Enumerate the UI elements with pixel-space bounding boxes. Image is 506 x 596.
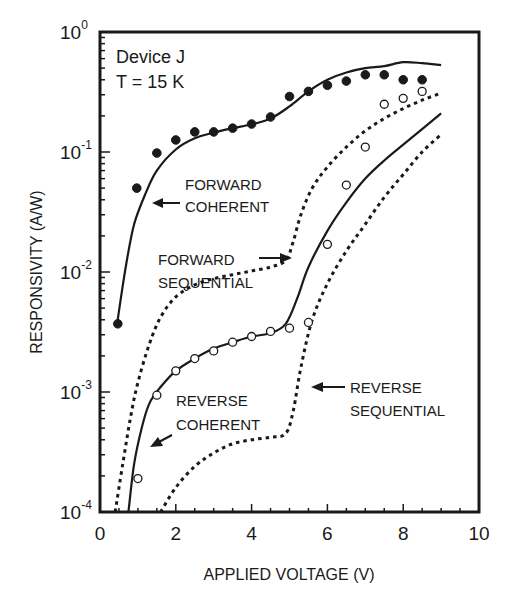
forward-data-point: [247, 120, 256, 129]
reverse-data-point: [380, 100, 388, 108]
y-tick-label: 100: [60, 18, 88, 43]
reverse-data-point: [323, 240, 331, 248]
forward-data-point: [114, 320, 123, 329]
reverse-data-point: [172, 367, 180, 375]
reverse-data-point: [229, 338, 237, 346]
x-tick-label: 2: [171, 523, 182, 544]
forward-data-point: [323, 81, 332, 90]
forward-data-point: [132, 184, 141, 193]
x-axis-tick-labels: 0246810: [95, 523, 490, 544]
reverse-sequential-label-line1: REVERSE: [350, 379, 422, 396]
forward-coherent-arrow-icon: [152, 198, 180, 208]
forward-data-point: [304, 87, 313, 96]
forward-data-point: [361, 70, 370, 79]
reverse-data-point: [361, 143, 369, 151]
y-tick-label: 10-4: [60, 498, 92, 523]
series-reverse-coherent-theory: [128, 113, 441, 512]
forward-sequential-arrow-icon: [259, 253, 292, 263]
forward-data-point: [153, 149, 162, 158]
x-tick-label: 0: [95, 523, 106, 544]
forward-data-point: [342, 77, 351, 86]
reverse-data-point: [191, 355, 199, 363]
forward-coherent-label-line2: COHERENT: [185, 198, 269, 215]
x-tick-label: 6: [322, 523, 333, 544]
forward-data-point: [380, 70, 389, 79]
x-axis-title: APPLIED VOLTAGE (V): [203, 566, 374, 583]
reverse-data-point: [210, 347, 218, 355]
y-axis-title: RESPONSIVITY (A/W): [28, 190, 45, 353]
forward-data-point: [399, 75, 408, 84]
reverse-data-point: [267, 327, 275, 335]
temperature-label: T = 15 K: [116, 72, 184, 92]
annotations: Device J T = 15 K FORWARD COHERENT FORWA…: [116, 47, 445, 447]
reverse-sequential-arrow-icon: [311, 382, 345, 392]
x-axis-ticks: [100, 504, 479, 512]
responsivity-chart: 0246810 10010-110-210-310-4 Device J T =…: [0, 0, 506, 596]
y-tick-label: 10-1: [60, 138, 92, 163]
reverse-data-point: [399, 94, 407, 102]
forward-data-point: [209, 128, 218, 137]
series-forward-sequential-theory: [115, 93, 441, 512]
forward-data-point: [285, 92, 294, 101]
reverse-coherent-arrow-icon: [150, 435, 172, 447]
device-label: Device J: [116, 47, 185, 67]
reverse-data-point: [153, 391, 161, 399]
reverse-data-point: [342, 181, 350, 189]
reverse-data-point: [418, 87, 426, 95]
forward-data-point: [190, 128, 199, 137]
forward-sequential-label-line1: FORWARD: [158, 251, 235, 268]
reverse-data-point: [286, 324, 294, 332]
x-tick-label: 8: [398, 523, 409, 544]
y-tick-label: 10-3: [60, 378, 92, 403]
forward-sequential-label-line2: SEQUENTIAL: [158, 274, 253, 291]
forward-data-point: [266, 113, 275, 122]
reverse-data-point: [134, 475, 142, 483]
reverse-data-point: [248, 333, 256, 341]
x-tick-label: 10: [468, 523, 489, 544]
reverse-sequential-label-line2: SEQUENTIAL: [350, 402, 445, 419]
forward-data-point: [172, 136, 181, 145]
forward-data-point: [418, 75, 427, 84]
forward-data-point: [228, 124, 237, 133]
reverse-data-point: [304, 318, 312, 326]
x-tick-label: 4: [246, 523, 257, 544]
reverse-coherent-label-line1: REVERSE: [176, 392, 248, 409]
forward-coherent-label-line1: FORWARD: [185, 176, 262, 193]
y-axis-tick-labels: 10010-110-210-310-4: [60, 18, 92, 523]
reverse-coherent-label-line2: COHERENT: [176, 416, 260, 433]
y-tick-label: 10-2: [60, 258, 92, 283]
